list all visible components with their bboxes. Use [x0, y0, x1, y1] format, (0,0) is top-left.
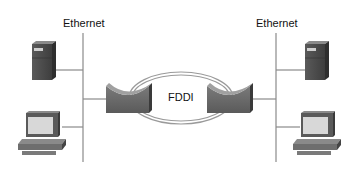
workstation-icon [293, 111, 341, 155]
server-icon [32, 41, 56, 80]
server-icon [305, 41, 329, 80]
left-ethernet-label: Ethernet [63, 17, 105, 29]
workstation-icon [18, 111, 66, 155]
fddi-concentrator-icon [106, 83, 152, 113]
fddi-concentrator-icon [207, 83, 253, 113]
network-diagram [0, 0, 361, 170]
fddi-label: FDDI [168, 91, 194, 103]
right-ethernet-label: Ethernet [256, 17, 298, 29]
